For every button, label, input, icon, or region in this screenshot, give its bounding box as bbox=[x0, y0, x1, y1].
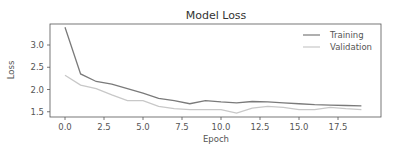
x-tick-label: 12.5 bbox=[251, 122, 270, 132]
y-tick-label: 3.0 bbox=[30, 40, 44, 50]
x-axis-ticks: 0.02.55.07.510.012.515.017.5 bbox=[58, 117, 347, 132]
series-layer bbox=[65, 27, 361, 113]
x-tick-label: 15.0 bbox=[290, 122, 309, 132]
legend-training-label: Training bbox=[329, 30, 364, 40]
y-axis-ticks: 1.52.02.53.0 bbox=[30, 40, 50, 117]
x-tick-label: 0.0 bbox=[58, 122, 72, 132]
y-axis-label: Loss bbox=[6, 60, 16, 79]
x-tick-label: 7.5 bbox=[175, 122, 189, 132]
x-axis-label: Epoch bbox=[203, 134, 229, 144]
y-tick-label: 1.5 bbox=[30, 107, 44, 117]
y-tick-label: 2.5 bbox=[30, 62, 44, 72]
x-tick-label: 2.5 bbox=[97, 122, 111, 132]
x-tick-label: 17.5 bbox=[329, 122, 348, 132]
legend: Training Validation bbox=[303, 30, 372, 52]
chart-title: Model Loss bbox=[186, 9, 247, 22]
loss-chart: Model Loss 0.02.55.07.510.012.515.017.5 … bbox=[0, 0, 396, 150]
y-tick-label: 2.0 bbox=[30, 85, 44, 95]
legend-validation-label: Validation bbox=[330, 42, 372, 52]
series-line-validation bbox=[65, 75, 361, 113]
x-tick-label: 10.0 bbox=[212, 122, 231, 132]
x-tick-label: 5.0 bbox=[136, 122, 150, 132]
